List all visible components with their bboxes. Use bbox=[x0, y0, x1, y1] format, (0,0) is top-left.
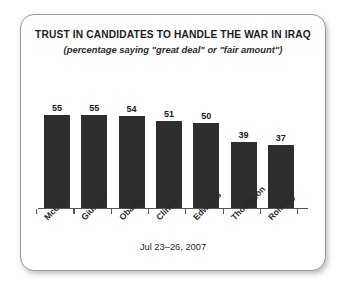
bar-slot: 37 bbox=[264, 103, 298, 208]
bar bbox=[44, 115, 70, 209]
axis-tick bbox=[297, 209, 298, 214]
bar-value-label: 51 bbox=[152, 109, 186, 119]
bar-value-label: 54 bbox=[115, 104, 149, 114]
axis-tick bbox=[185, 209, 186, 214]
chart-title: TRUST IN CANDIDATES TO HANDLE THE WAR IN… bbox=[21, 29, 325, 40]
bar bbox=[119, 116, 145, 208]
chart-subtitle: (percentage saying "great deal" or "fair… bbox=[21, 44, 325, 55]
bar-value-label: 55 bbox=[77, 103, 111, 113]
bar-slot: 54 bbox=[115, 103, 149, 208]
bar bbox=[156, 121, 182, 208]
axis-tick bbox=[73, 209, 74, 214]
axis-tick bbox=[148, 209, 149, 214]
date-caption: Jul 23–26, 2007 bbox=[21, 242, 325, 252]
bar-slot: 55 bbox=[77, 103, 111, 208]
bar-slot: 55 bbox=[40, 103, 74, 208]
bar-value-label: 55 bbox=[40, 103, 74, 113]
bar-value-label: 37 bbox=[264, 133, 298, 143]
axis-tick bbox=[36, 209, 37, 214]
bar-slot: 51 bbox=[152, 103, 186, 208]
axis-tick bbox=[223, 209, 224, 214]
chart-panel: TRUST IN CANDIDATES TO HANDLE THE WAR IN… bbox=[20, 14, 326, 271]
axis-tick bbox=[260, 209, 261, 214]
bar-value-label: 50 bbox=[189, 111, 223, 121]
axis-tick bbox=[111, 209, 112, 214]
bar-value-label: 39 bbox=[227, 130, 261, 140]
